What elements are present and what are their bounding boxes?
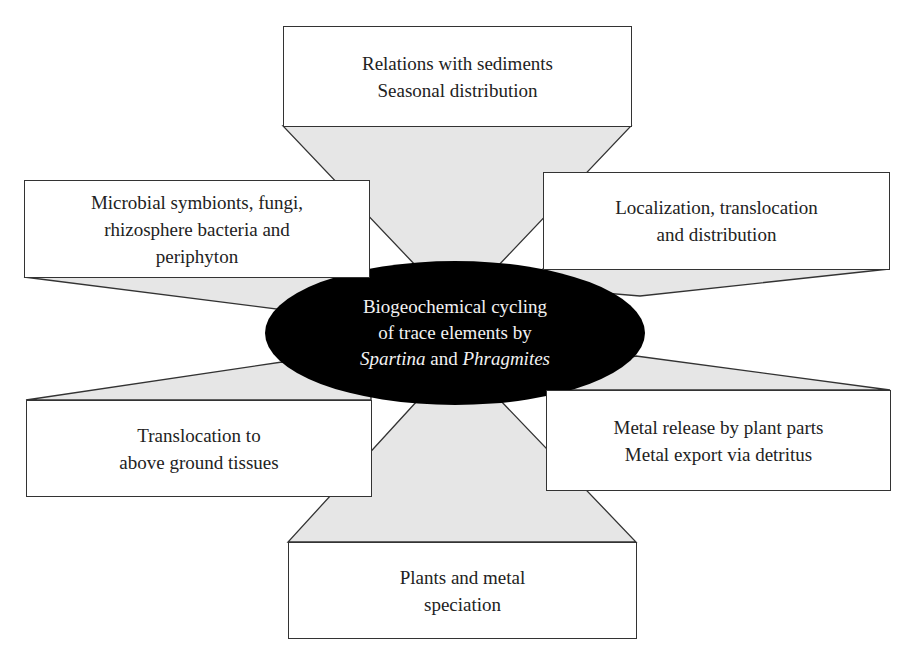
node-lower-left-line-2: above ground tissues [119, 449, 278, 476]
node-upper-right-line-1: Localization, translocation [615, 194, 818, 221]
node-bottom-line-1: Plants and metal [400, 564, 526, 591]
center-label: Biogeochemical cycling of trace elements… [265, 261, 645, 405]
genus-phragmites: Phragmites [462, 348, 550, 369]
node-lower-left: Translocation to above ground tissues [26, 400, 372, 497]
node-lower-right-line-2: Metal export via detritus [614, 441, 824, 468]
center-line-2: of trace elements by [378, 320, 532, 346]
genus-spartina: Spartina [360, 348, 425, 369]
node-top-line-2: Seasonal distribution [362, 77, 553, 104]
node-top-line-1: Relations with sediments [362, 50, 553, 77]
node-upper-right: Localization, translocation and distribu… [543, 172, 890, 270]
node-lower-right: Metal release by plant parts Metal expor… [546, 390, 891, 491]
node-bottom-line-2: speciation [400, 591, 526, 618]
node-upper-left-line-1: Microbial symbionts, fungi, [91, 189, 303, 216]
node-top: Relations with sediments Seasonal distri… [283, 26, 632, 127]
node-upper-right-line-2: and distribution [615, 221, 818, 248]
center-line-3-conjunction: and [425, 348, 462, 369]
node-lower-left-line-1: Translocation to [119, 422, 278, 449]
center-line-3: Spartina and Phragmites [360, 346, 550, 372]
center-line-1: Biogeochemical cycling [363, 294, 547, 320]
node-bottom: Plants and metal speciation [288, 542, 637, 639]
node-lower-right-line-1: Metal release by plant parts [614, 414, 824, 441]
node-upper-left-line-2: rhizosphere bacteria and [91, 216, 303, 243]
